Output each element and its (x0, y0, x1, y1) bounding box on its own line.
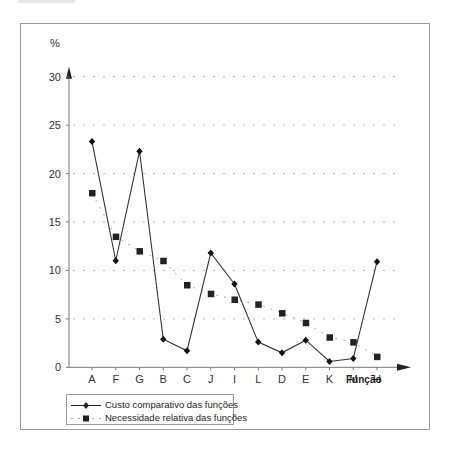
square-marker-icon (208, 291, 215, 298)
diamond-marker-icon (136, 148, 142, 155)
square-marker-icon (279, 310, 286, 317)
x-tick-label: J (208, 373, 214, 385)
square-marker-icon (184, 282, 191, 289)
y-tick-label: 10 (49, 264, 61, 276)
square-marker-icon (327, 334, 334, 341)
diamond-marker-icon (350, 355, 356, 362)
y-tick-label: 25 (49, 119, 61, 131)
diamond-marker-icon (255, 339, 261, 346)
x-tick-label: E (302, 373, 309, 385)
y-axis-unit-label: % (50, 37, 60, 49)
legend-solid-diamond-icon (71, 398, 101, 411)
y-tick-label: 20 (49, 168, 61, 180)
square-marker-icon (374, 354, 381, 361)
diamond-marker-icon (89, 138, 95, 145)
necessidade-line (92, 193, 377, 357)
legend-dashed-square-icon (71, 411, 101, 424)
diamond-marker-icon (113, 257, 119, 264)
x-tick-label: I (233, 373, 236, 385)
y-tick-label: 5 (55, 313, 61, 325)
diamond-marker-icon (184, 347, 190, 354)
x-tick-label: L (255, 373, 261, 385)
square-marker-icon (137, 248, 144, 255)
series-custo-comparativo (89, 138, 380, 365)
x-axis-ticks: AFGBCJILDEKMH (88, 367, 381, 385)
x-tick-label: F (112, 373, 119, 385)
custo-line (92, 142, 377, 362)
chart-legend: Custo comparativo das funções Necessidad… (66, 394, 234, 425)
legend-item-necessidade: Necessidade relativa das funções (67, 411, 247, 424)
x-tick-label: D (278, 373, 286, 385)
legend-item-custo: Custo comparativo das funções (67, 398, 238, 411)
axes (66, 67, 411, 371)
x-tick-label: C (183, 373, 191, 385)
square-marker-icon (160, 258, 167, 265)
y-tick-label: 15 (49, 216, 61, 228)
diamond-marker-icon (160, 336, 166, 343)
square-marker-icon (89, 190, 96, 197)
square-marker-icon (350, 339, 357, 346)
legend-label-custo: Custo comparativo das funções (105, 399, 238, 410)
line-chart: 051015202530 AFGBCJILDEKMH % Função (0, 0, 449, 449)
x-tick-label: A (88, 373, 96, 385)
x-axis-arrow-icon (397, 364, 411, 371)
square-marker-icon (113, 234, 120, 241)
x-axis-title: Função (346, 374, 382, 385)
y-tick-label: 0 (55, 361, 61, 373)
square-marker-icon (232, 296, 239, 303)
y-tick-label: 30 (49, 71, 61, 83)
diamond-marker-icon (374, 258, 380, 265)
x-tick-label: K (326, 373, 334, 385)
diamond-marker-icon (279, 349, 285, 356)
x-tick-label: G (135, 373, 144, 385)
square-marker-icon (255, 301, 262, 308)
x-tick-label: B (160, 373, 167, 385)
legend-label-necessidade: Necessidade relativa das funções (105, 412, 247, 423)
y-axis-ticks: 051015202530 (49, 71, 69, 374)
square-marker-icon (303, 320, 310, 327)
series-necessidade-relativa (89, 190, 381, 360)
